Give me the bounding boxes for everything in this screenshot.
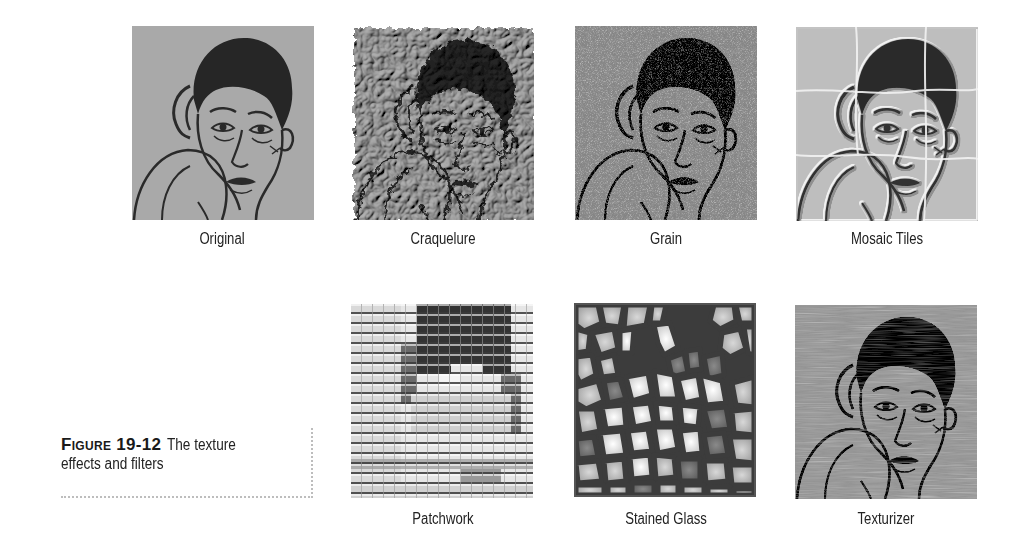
image-texturizer (795, 305, 977, 499)
face-illustration-stained-glass (574, 303, 756, 497)
image-patchwork (351, 304, 533, 498)
face-illustration-original (132, 26, 314, 220)
label-craquelure: Craquelure (353, 230, 533, 248)
image-original (132, 26, 314, 220)
face-illustration-grain (575, 26, 757, 220)
face-illustration-mosaic-tiles (796, 27, 978, 221)
image-craquelure (352, 26, 534, 220)
label-grain: Grain (576, 230, 756, 248)
figure-caption: Figure 19-12The texture effects and filt… (61, 428, 313, 498)
caption-line-1: Figure 19-12The texture (61, 435, 248, 455)
face-illustration-texturizer (795, 305, 977, 499)
image-grain (575, 26, 757, 220)
label-mosaic-tiles: Mosaic Tiles (797, 230, 977, 248)
face-illustration-patchwork (351, 304, 533, 498)
image-mosaic-tiles (796, 27, 978, 221)
label-texturizer: Texturizer (796, 510, 976, 528)
label-patchwork: Patchwork (353, 510, 533, 528)
face-illustration-craquelure (352, 26, 534, 220)
figure-title-part-2: effects and filters (61, 455, 164, 473)
figure-number: Figure 19-12 (61, 435, 161, 454)
image-stained-glass (574, 303, 756, 497)
label-stained-glass: Stained Glass (576, 510, 756, 528)
label-original: Original (132, 230, 312, 248)
figure-title-part-1: The texture (167, 436, 236, 454)
